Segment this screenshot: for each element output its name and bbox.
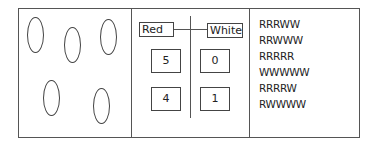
sequence-item: RRWWW — [259, 32, 309, 48]
oval-shape — [93, 88, 110, 124]
oval-shape — [100, 19, 117, 55]
label-connector — [173, 29, 208, 30]
oval-shape — [64, 27, 81, 63]
sequence-item: RRRWW — [259, 16, 309, 32]
red-count-box: 4 — [151, 87, 181, 111]
panel-divider-left — [131, 8, 132, 138]
white-count-box: 1 — [200, 87, 230, 111]
sequence-item: RWWWW — [259, 96, 309, 112]
sequence-item: WWWWW — [259, 64, 309, 80]
white-label: White — [207, 23, 243, 38]
white-count-box: 0 — [200, 49, 230, 73]
red-count-box: 5 — [151, 49, 181, 73]
column-separator — [190, 16, 191, 118]
panel-divider-right — [249, 8, 250, 138]
sequence-item: RRRRW — [259, 80, 309, 96]
sequence-list: RRRWW RRWWW RRRRR WWWWW RRRRW RWWWW — [259, 16, 309, 112]
sequence-item: RRRRR — [259, 48, 309, 64]
oval-shape — [43, 80, 60, 116]
red-label: Red — [139, 22, 174, 37]
oval-shape — [27, 17, 44, 53]
